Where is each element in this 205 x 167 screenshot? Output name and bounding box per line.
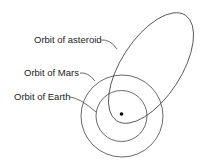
earth-label: Orbit of Earth <box>14 91 71 102</box>
mars-leader <box>80 73 95 81</box>
mars-orbit <box>81 75 163 157</box>
diagram-svg: Orbit of asteroid Orbit of Mars Orbit of… <box>0 0 205 167</box>
asteroid-leader <box>101 40 117 49</box>
asteroid-orbit <box>92 0 205 137</box>
asteroid-label: Orbit of asteroid <box>34 34 102 45</box>
sun-dot <box>120 112 124 116</box>
earth-orbit <box>96 91 147 142</box>
orbit-diagram: Orbit of asteroid Orbit of Mars Orbit of… <box>0 0 205 167</box>
mars-label: Orbit of Mars <box>24 67 79 78</box>
